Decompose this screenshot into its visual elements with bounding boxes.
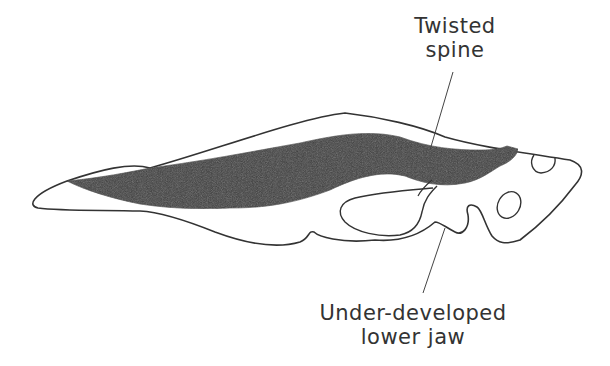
label-twisted-spine-line1: Twisted [405, 14, 505, 38]
label-twisted-spine: Twisted spine [405, 14, 505, 62]
label-lower-jaw-line2: lower jaw [318, 325, 508, 349]
label-twisted-spine-line2: spine [405, 38, 505, 62]
label-lower-jaw: Under-developed lower jaw [318, 301, 508, 349]
fish-embryo-diagram [0, 0, 610, 366]
jaw-leader-line [423, 228, 445, 293]
label-lower-jaw-line1: Under-developed [318, 301, 508, 325]
